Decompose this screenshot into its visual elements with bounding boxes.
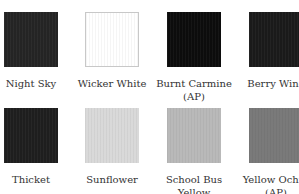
- swatch-label-night-sky[interactable]: Night Sky: [0, 77, 71, 90]
- swatch-wicker-white[interactable]: [85, 12, 139, 67]
- swatch-yellow-ochre[interactable]: [249, 108, 299, 163]
- swatch-label-berry-wine[interactable]: Berry Wine: [236, 77, 299, 90]
- swatch-label-burnt-carmine[interactable]: Burnt Carmine (AP): [154, 77, 234, 103]
- swatch-sunflower[interactable]: [85, 108, 139, 163]
- swatch-burnt-carmine[interactable]: [167, 12, 221, 67]
- swatch-night-sky[interactable]: [4, 12, 58, 67]
- swatch-label-school-bus-yellow[interactable]: School Bus Yellow: [154, 173, 234, 194]
- swatch-label-sunflower[interactable]: Sunflower: [72, 173, 152, 186]
- swatch-label-thicket[interactable]: Thicket: [0, 173, 71, 186]
- swatch-thicket[interactable]: [4, 108, 58, 163]
- swatch-label-yellow-ochre[interactable]: Yellow Ochre (AP): [236, 173, 299, 194]
- swatch-berry-wine[interactable]: [249, 12, 299, 67]
- swatch-school-bus-yellow[interactable]: [167, 108, 221, 163]
- swatch-label-wicker-white[interactable]: Wicker White: [72, 77, 152, 90]
